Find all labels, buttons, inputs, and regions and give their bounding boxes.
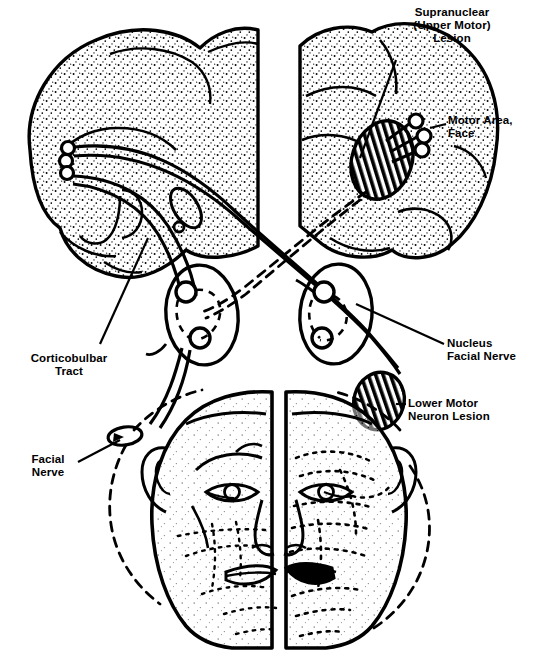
label-lmn-line1: Lower Motor	[408, 397, 558, 410]
label-facial-line1: Facial	[4, 453, 92, 466]
hemiface-right	[280, 385, 429, 655]
label-nucleus-line2: Facial Nerve	[447, 350, 557, 363]
label-cbt-line1: Corticobulbar	[8, 352, 130, 365]
label-motor-area-line2: Face	[448, 127, 556, 140]
anatomy-illustration	[0, 0, 559, 658]
label-supranuclear-line1: Supranuclear	[392, 6, 512, 19]
label-nucleus-facial-nerve: Nucleus Facial Nerve	[447, 337, 557, 363]
label-nucleus-line1: Nucleus	[447, 337, 557, 350]
label-lower-motor-neuron-lesion: Lower Motor Neuron Lesion	[408, 397, 558, 423]
label-facial-line2: Nerve	[4, 466, 92, 479]
label-facial-nerve: Facial Nerve	[4, 453, 92, 479]
label-corticobulbar-tract: Corticobulbar Tract	[8, 352, 130, 378]
motor-cortex-neurons-left	[60, 142, 75, 180]
label-cbt-line2: Tract	[8, 365, 130, 378]
label-supranuclear-line2: (Upper Motor)	[392, 19, 512, 32]
label-supranuclear-lesion: Supranuclear (Upper Motor) Lesion	[392, 6, 512, 45]
label-lmn-line2: Neuron Lesion	[408, 410, 558, 423]
label-motor-area-line1: Motor Area,	[448, 114, 556, 127]
cerebral-hemisphere-left	[20, 18, 280, 288]
label-supranuclear-line3: Lesion	[392, 32, 512, 45]
hemiface-left	[110, 385, 280, 655]
label-motor-area-face: Motor Area, Face	[448, 114, 556, 140]
figure-canvas: Supranuclear (Upper Motor) Lesion Motor …	[0, 0, 559, 658]
